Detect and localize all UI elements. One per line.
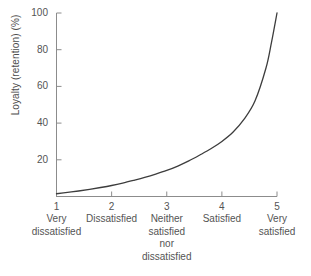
y-tick-label-100: 100 [22, 8, 48, 18]
loyalty-satisfaction-chart: Loyalty (retention) (%) 10080604020 1Ver… [0, 0, 311, 276]
x-tick-category-line: Very [234, 213, 311, 226]
loyalty-curve [57, 13, 278, 194]
x-tick-marks [57, 192, 278, 197]
x-tick-category-line: satisfied [124, 226, 210, 239]
x-tick-category-line: satisfied [234, 226, 311, 239]
x-tick-category-line: nor [124, 238, 210, 251]
y-tick-marks [57, 13, 62, 160]
x-tick-category-line: dissatisfied [124, 251, 210, 264]
y-tick-label-40: 40 [22, 118, 48, 128]
x-tick-group-5: 5Verysatisfied [234, 201, 311, 238]
x-tick-category-line: dissatisfied [14, 226, 100, 239]
y-axis-label-text: Loyalty (retention) (%) [10, 15, 21, 116]
y-axis-label: Loyalty (retention) (%) [10, 0, 30, 130]
x-tick-number-5: 5 [234, 201, 311, 213]
y-tick-label-80: 80 [22, 45, 48, 55]
y-tick-label-60: 60 [22, 81, 48, 91]
y-tick-label-20: 20 [22, 155, 48, 165]
